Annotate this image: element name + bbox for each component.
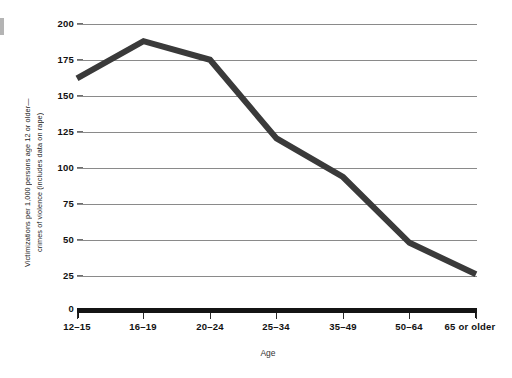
x-tick-mark-1	[143, 313, 144, 319]
gridline-125	[77, 132, 477, 133]
gridline-100	[77, 168, 477, 169]
x-tick-mark-4	[343, 313, 344, 319]
y-tick-label-25: 25	[44, 270, 74, 281]
y-tick-text: 200	[58, 18, 74, 29]
y-tick-label-175: 175	[44, 54, 74, 65]
y-tick-dash	[77, 59, 83, 60]
x-tick-mark-3	[276, 313, 277, 319]
x-tick-label-20-24: 20–24	[196, 321, 223, 332]
y-tick-text: 100	[58, 162, 74, 173]
y-tick-label-100: 100	[44, 162, 74, 173]
y-tick-label-150: 150	[44, 90, 74, 101]
x-tick-label-16-19: 16–19	[129, 321, 156, 332]
x-axis-title: Age	[0, 348, 512, 358]
y-tick-label-200: 200	[44, 18, 74, 29]
y-axis-title: Victimizations per 1,000 persons age 12 …	[22, 85, 48, 280]
x-tick-mark-2	[210, 313, 211, 319]
y-tick-label-75: 75	[44, 198, 74, 209]
y-tick-dash	[77, 131, 83, 132]
y-tick-text: 150	[58, 90, 74, 101]
x-tick-label-50-64: 50–64	[395, 321, 422, 332]
y-tick-text: 175	[58, 54, 74, 65]
gridline-25	[77, 276, 477, 277]
gridline-50	[77, 240, 477, 241]
gridline-175	[77, 60, 477, 61]
y-tick-dash	[77, 23, 83, 24]
x-tick-label-12-15: 12–15	[63, 321, 90, 332]
y-tick-label-0: 0	[44, 303, 74, 314]
gridline-150	[77, 96, 477, 97]
page-edge-mark	[0, 18, 4, 35]
gridline-200	[77, 24, 477, 25]
x-tick-mark-0	[77, 313, 78, 319]
y-tick-text: 125	[58, 126, 74, 137]
y-tick-text: 0	[69, 303, 74, 314]
x-tick-label-25-34: 25–34	[262, 321, 289, 332]
x-tick-mark-5	[409, 313, 410, 319]
x-tick-label-65-or-older: 65 or older	[445, 321, 496, 332]
x-axis-baseline	[77, 308, 477, 313]
chart-figure: Victimizations per 1,000 persons age 12 …	[0, 0, 512, 378]
y-tick-dash	[77, 203, 83, 204]
y-tick-text: 75	[63, 198, 74, 209]
x-tick-label-35-49: 35–49	[329, 321, 356, 332]
y-tick-text: 50	[63, 234, 74, 245]
y-tick-dash	[77, 239, 83, 240]
x-tick-mark-6	[476, 313, 477, 319]
y-tick-dash	[77, 95, 83, 96]
y-tick-dash	[77, 167, 83, 168]
y-tick-label-50: 50	[44, 234, 74, 245]
y-tick-label-125: 125	[44, 126, 74, 137]
x-axis-title-text: Age	[260, 348, 275, 358]
y-axis-title-line-2: crimes of violence (includes data on rap…	[34, 85, 46, 280]
y-tick-dash	[77, 275, 83, 276]
y-axis-title-line-1: Victimizations per 1,000 persons age 12 …	[22, 85, 34, 280]
gridline-75	[77, 204, 477, 205]
y-tick-text: 25	[63, 270, 74, 281]
